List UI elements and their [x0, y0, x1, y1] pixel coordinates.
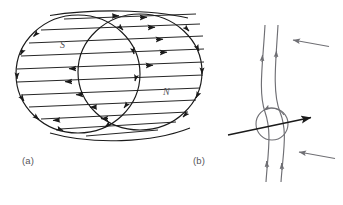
side-arrow-top [293, 40, 329, 47]
left-face-rim-arrows [17, 34, 63, 131]
figure-canvas: S N [0, 0, 343, 205]
north-pole-label: N [162, 86, 171, 97]
field-line-left [261, 25, 269, 182]
side-arrow-bottom [299, 152, 335, 159]
panel-a-caption: (a) [22, 155, 34, 166]
force-arrow [228, 118, 311, 136]
panel-b-conductor-field [228, 25, 335, 182]
deflected-field-lines [261, 25, 284, 182]
panel-a-cylinder-magnet [16, 11, 204, 141]
panel-b-caption: (b) [193, 155, 205, 166]
physics-figure: S N (a) (b) [0, 0, 343, 205]
side-indicator-arrows [293, 40, 335, 159]
cylinder-field-lines [17, 14, 204, 136]
field-line-right [275, 25, 284, 182]
field-arrows-right-half [112, 16, 167, 66]
south-pole-label: S [60, 39, 65, 50]
field-arrows-left-half [53, 69, 108, 121]
center-lens-arrows [105, 27, 136, 127]
